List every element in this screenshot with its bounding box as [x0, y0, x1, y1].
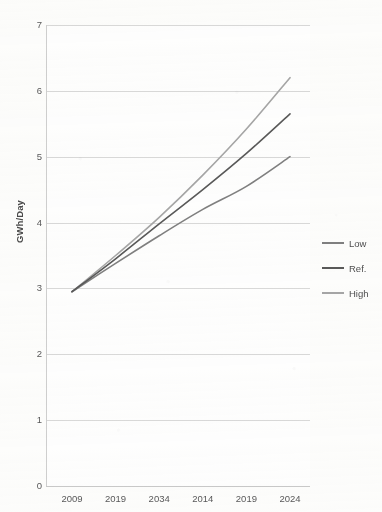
x-axis-tick-label: 2024	[268, 493, 312, 504]
x-axis-tick-label: 2014	[181, 493, 225, 504]
legend-line-swatch	[322, 242, 344, 244]
x-axis-tick-label: 2019	[224, 493, 268, 504]
chart-legend: LowRef.High	[322, 236, 380, 306]
legend-item-ref[interactable]: Ref.	[322, 261, 366, 275]
legend-item-label: Low	[349, 238, 366, 249]
x-axis-tick-label: 2019	[94, 493, 138, 504]
legend-line-swatch	[322, 292, 344, 294]
legend-item-low[interactable]: Low	[322, 236, 366, 250]
legend-item-label: High	[349, 288, 369, 299]
chart-container: GWh/Day 01234567 20092019203420142019202…	[0, 0, 382, 512]
legend-item-high[interactable]: High	[322, 286, 369, 300]
x-axis-tick-label: 2034	[137, 493, 181, 504]
x-axis-tick-label: 2009	[50, 493, 94, 504]
legend-item-label: Ref.	[349, 263, 366, 274]
legend-line-swatch	[322, 267, 344, 269]
